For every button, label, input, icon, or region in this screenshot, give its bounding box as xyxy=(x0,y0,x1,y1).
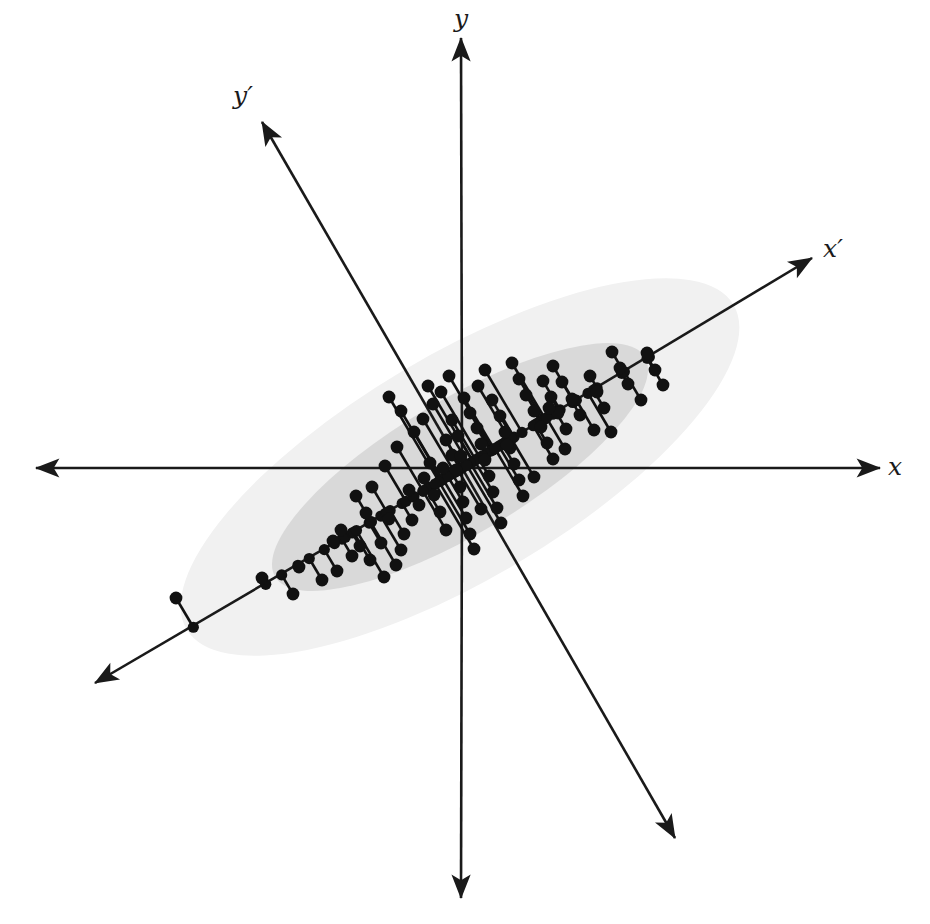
data-point xyxy=(428,489,441,502)
data-point xyxy=(499,426,512,439)
data-point xyxy=(513,373,526,386)
data-point xyxy=(535,421,548,434)
data-point xyxy=(528,471,541,484)
data-point xyxy=(170,592,183,605)
data-point xyxy=(452,430,465,443)
data-point xyxy=(437,462,450,475)
data-point xyxy=(395,405,408,418)
data-point xyxy=(418,472,431,485)
data-point xyxy=(641,347,654,360)
data-point xyxy=(584,370,597,383)
projection-foot-dot xyxy=(489,443,500,454)
data-point xyxy=(588,424,601,437)
data-point xyxy=(375,537,388,550)
data-point xyxy=(446,414,459,427)
data-point xyxy=(391,441,404,454)
data-point xyxy=(354,540,367,553)
projection-foot-dot xyxy=(188,622,199,633)
data-point xyxy=(460,512,473,525)
data-point xyxy=(547,360,560,373)
data-point xyxy=(494,410,507,423)
data-point xyxy=(491,502,504,515)
projection-foot-dot xyxy=(276,569,287,580)
data-point xyxy=(287,588,300,601)
data-point xyxy=(559,443,572,456)
data-point xyxy=(541,437,554,450)
data-point xyxy=(483,470,496,483)
data-point xyxy=(614,362,627,375)
data-point xyxy=(598,402,611,415)
data-point xyxy=(457,496,470,509)
data-point xyxy=(528,405,541,418)
data-point xyxy=(408,426,421,439)
data-point xyxy=(390,559,403,572)
data-point xyxy=(455,450,468,463)
data-point xyxy=(471,422,484,435)
projection-foot-dot xyxy=(430,478,441,489)
data-point xyxy=(458,392,471,405)
data-point xyxy=(422,380,435,393)
data-point xyxy=(495,517,508,530)
data-point xyxy=(383,513,396,526)
data-point xyxy=(556,376,569,389)
y-axis-segment-negative xyxy=(461,468,462,898)
data-point xyxy=(364,554,377,567)
data-point xyxy=(566,393,579,406)
pca-diagram-canvas: xyx′y′ xyxy=(0,0,930,924)
data-point xyxy=(406,514,419,527)
data-point xyxy=(335,524,348,537)
data-point xyxy=(454,481,467,494)
data-point xyxy=(475,503,488,516)
data-point xyxy=(366,481,379,494)
data-point xyxy=(649,364,662,377)
data-point xyxy=(346,550,359,563)
data-point xyxy=(622,378,635,391)
data-point xyxy=(403,484,416,497)
projection-foot-dot xyxy=(351,525,362,536)
data-point xyxy=(543,402,556,415)
data-point xyxy=(256,572,269,585)
data-point xyxy=(464,528,477,541)
data-point xyxy=(479,454,492,467)
data-point xyxy=(545,391,558,404)
data-point xyxy=(398,528,411,541)
data-point xyxy=(417,413,430,426)
data-point xyxy=(475,438,488,451)
data-point xyxy=(450,464,463,477)
data-point xyxy=(316,574,329,587)
data-point xyxy=(487,486,500,499)
data-point xyxy=(434,506,447,519)
y-axis-label: y xyxy=(453,4,469,33)
projection-foot-dot xyxy=(304,553,315,564)
projection-foot-dot xyxy=(319,544,330,555)
pca-projection-figure: xyx′y′ xyxy=(0,0,930,924)
data-point xyxy=(327,535,340,548)
data-point xyxy=(293,561,306,574)
x-prime-axis-label: x′ xyxy=(823,234,843,263)
data-point xyxy=(427,398,440,411)
data-point xyxy=(413,499,426,512)
data-point xyxy=(606,346,619,359)
data-point xyxy=(395,544,408,557)
data-point xyxy=(360,507,373,520)
data-point xyxy=(605,426,618,439)
data-point xyxy=(383,391,396,404)
data-point xyxy=(468,543,481,556)
data-point xyxy=(547,453,560,466)
data-point xyxy=(424,457,437,470)
data-point xyxy=(635,394,648,407)
data-point xyxy=(464,407,477,420)
data-point xyxy=(440,524,453,537)
data-point xyxy=(443,370,456,383)
data-point xyxy=(331,565,344,578)
data-point xyxy=(560,423,573,436)
y-prime-axis-label: y′ xyxy=(232,81,253,110)
data-point xyxy=(591,386,604,399)
data-point xyxy=(486,394,499,407)
projection-foot-dot xyxy=(417,486,428,497)
data-point xyxy=(378,571,391,584)
data-point xyxy=(501,439,514,452)
data-point xyxy=(379,460,392,473)
data-point xyxy=(440,434,453,447)
data-point xyxy=(472,380,485,393)
